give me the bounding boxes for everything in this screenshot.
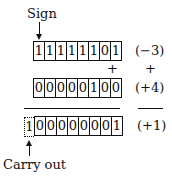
register-row2: 00000100 bbox=[33, 78, 122, 98]
sign-label: Sign bbox=[27, 6, 57, 21]
bit: 1 bbox=[56, 42, 67, 60]
bit: 0 bbox=[79, 117, 90, 135]
bit: 1 bbox=[89, 79, 100, 97]
bit: 0 bbox=[90, 117, 101, 135]
result-value: (+1) bbox=[137, 118, 166, 133]
bit: 0 bbox=[56, 79, 67, 97]
bit: 1 bbox=[67, 42, 78, 60]
bit: 1 bbox=[78, 42, 89, 60]
bit: 0 bbox=[111, 79, 121, 97]
bit: 1 bbox=[112, 117, 122, 135]
bit: 1 bbox=[111, 42, 121, 60]
bit: 0 bbox=[34, 79, 45, 97]
twos-complement-diagram: Sign 11111101 (−3) + + 00000100 (+4) 1 0… bbox=[0, 0, 172, 178]
bit: 0 bbox=[57, 117, 68, 135]
register-row1: 11111101 bbox=[33, 41, 122, 61]
carry-arrowhead-icon bbox=[26, 140, 32, 146]
bit: 0 bbox=[35, 117, 46, 135]
bit: 0 bbox=[100, 42, 111, 60]
bit: 0 bbox=[67, 79, 78, 97]
bit: 1 bbox=[89, 42, 100, 60]
bit: 0 bbox=[68, 117, 79, 135]
carry-bit: 1 bbox=[24, 117, 34, 137]
bit: 0 bbox=[100, 79, 111, 97]
plus-sign: + bbox=[107, 61, 118, 76]
bit: 0 bbox=[78, 79, 89, 97]
bit: 0 bbox=[46, 117, 57, 135]
bit: 0 bbox=[45, 79, 56, 97]
bit: 1 bbox=[34, 42, 45, 60]
bit: 0 bbox=[101, 117, 112, 135]
plus-sign-2: + bbox=[145, 61, 156, 76]
sign-arrowhead-icon bbox=[36, 34, 42, 40]
row2-value: (+4) bbox=[135, 80, 164, 95]
sum-line bbox=[24, 108, 120, 109]
register-result: 00000001 bbox=[34, 116, 123, 136]
sum-line-2 bbox=[138, 108, 163, 109]
bit: 1 bbox=[45, 42, 56, 60]
row1-value: (−3) bbox=[135, 43, 164, 58]
carry-label: Carry out bbox=[3, 157, 66, 172]
